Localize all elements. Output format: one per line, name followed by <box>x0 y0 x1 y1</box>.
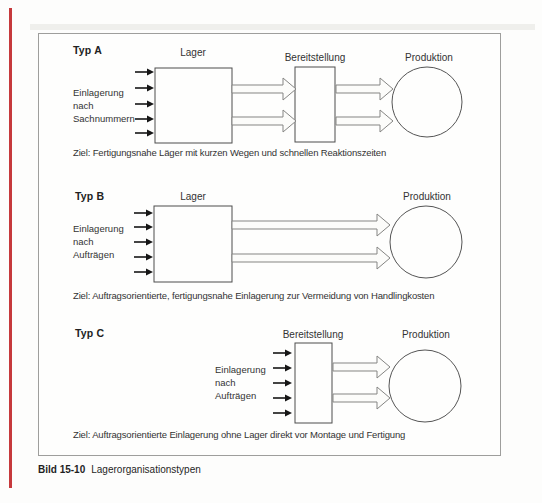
input-label-a-line3: Sachnummern <box>73 112 135 125</box>
produktion-label-c: Produktion <box>402 329 450 340</box>
input-label-c-line1: Einlagerung <box>215 363 266 376</box>
ziel-b: Ziel: Auftragsorientierte, fertigungsnah… <box>73 290 434 301</box>
input-arrow <box>134 224 153 231</box>
input-arrow <box>135 69 154 76</box>
bereitstellung-label-a: Bereitstellung <box>285 52 346 63</box>
input-arrow <box>273 395 292 402</box>
input-arrow <box>273 350 292 357</box>
flow-arrow-b-lager-produktion-1 <box>232 214 390 236</box>
lager-label-a: Lager <box>180 47 206 58</box>
input-label-c: Einlagerung nach Aufträgen <box>215 363 266 402</box>
input-arrow <box>135 85 154 92</box>
produktion-label-b: Produktion <box>403 191 451 202</box>
ziel-a: Ziel: Fertigungsnahe Läger mit kurzen We… <box>73 147 386 158</box>
input-label-c-line3: Aufträgen <box>215 389 266 402</box>
produktion-circle-b <box>390 206 462 278</box>
input-arrow <box>135 116 154 123</box>
input-label-c-line2: nach <box>215 376 266 389</box>
bereitstellung-label-c: Bereitstellung <box>283 329 344 340</box>
typ-c-label: Typ C <box>75 327 104 339</box>
lager-box-b <box>154 206 232 282</box>
ziel-c: Ziel: Auftragsorientierte Einlagerung oh… <box>73 429 405 440</box>
input-label-b-line1: Einlagerung <box>73 222 124 235</box>
flow-arrow-c-bereitstellung-produktion-2 <box>333 387 390 409</box>
flow-arrow-c-bereitstellung-produktion-1 <box>333 356 390 378</box>
bereitstellung-box-c <box>295 343 332 423</box>
input-arrow <box>273 410 292 417</box>
typ-b-label: Typ B <box>75 190 104 202</box>
figure-caption: Bild 15-10Lagerorganisationstypen <box>38 464 201 475</box>
lager-box-a <box>155 68 232 143</box>
flow-arrow-b-lager-produktion-2 <box>232 247 390 269</box>
input-label-b: Einlagerung nach Aufträgen <box>73 222 124 261</box>
produktion-circle-c <box>389 350 461 422</box>
input-arrow <box>273 365 292 372</box>
input-arrow <box>134 239 153 246</box>
produktion-circle-a <box>392 67 462 137</box>
lager-label-b: Lager <box>180 191 206 202</box>
input-label-b-line3: Aufträgen <box>73 248 124 261</box>
flow-arrow-a-lager-bereitstellung-2 <box>232 110 296 132</box>
input-label-a-line1: Einlagerung <box>73 86 135 99</box>
figure-caption-number: Bild 15-10 <box>38 464 85 475</box>
input-label-b-line2: nach <box>73 235 124 248</box>
input-arrow <box>135 101 154 108</box>
input-arrow <box>134 254 153 261</box>
input-arrow <box>134 269 153 276</box>
flow-arrow-a-lager-bereitstellung-1 <box>232 78 296 100</box>
input-label-a-line2: nach <box>73 99 135 112</box>
flow-arrow-a-bereitstellung-produktion-2 <box>336 110 393 132</box>
input-label-a: Einlagerung nach Sachnummern <box>73 86 135 125</box>
input-arrow <box>135 130 154 137</box>
flow-arrow-a-bereitstellung-produktion-1 <box>336 78 393 100</box>
typ-a-label: Typ A <box>73 44 102 56</box>
bereitstellung-box-a <box>295 67 335 142</box>
produktion-label-a: Produktion <box>405 52 453 63</box>
figure-caption-title: Lagerorganisationstypen <box>91 464 201 475</box>
input-arrow <box>273 380 292 387</box>
input-arrow <box>134 210 153 217</box>
